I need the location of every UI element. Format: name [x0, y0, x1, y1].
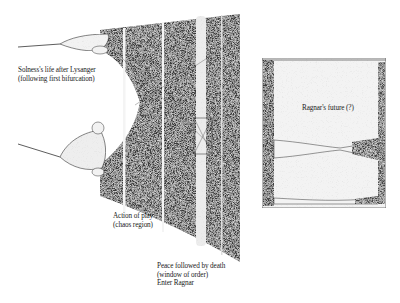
annotation-action: Action of play (chaos region): [113, 212, 153, 229]
annotation-action-line1: Action of play: [113, 212, 153, 221]
annotation-peace-line1: Peace followed by death: [157, 262, 225, 271]
inset-magnified-window: [262, 58, 386, 208]
annotation-ragnar-line1: Ragnar's future (?): [302, 104, 354, 113]
upper-stable-branch: [18, 44, 60, 47]
upper-small-lobe: [92, 46, 108, 54]
lower-stable-branch: [18, 144, 60, 157]
annotation-peace: Peace followed by death (window of order…: [157, 262, 225, 288]
lower-period-lobe: [60, 130, 106, 170]
inset-left-chaos-band: [263, 60, 274, 206]
annotation-action-line2: (chaos region): [113, 221, 153, 230]
annotation-solness-line1: Solness's life after Lysanger: [18, 66, 96, 75]
lower-small-lobe-top: [92, 122, 104, 134]
inset-right-chaos-band: [378, 62, 385, 204]
lower-small-lobe-bottom: [92, 168, 104, 176]
annotation-solness-line2: (following first bifurcation): [18, 75, 96, 84]
bifurcation-figure: [0, 0, 400, 303]
periodic-window-1: [123, 28, 126, 216]
annotation-peace-line3: Enter Ragnar: [157, 279, 225, 288]
periodic-window-4: [221, 15, 223, 255]
periodic-window-2: [162, 22, 164, 232]
inset-frame: [262, 58, 386, 208]
annotation-peace-line2: (window of order): [157, 271, 225, 280]
annotation-solness: Solness's life after Lysanger (following…: [18, 66, 96, 83]
periodic-window-3-period3: [196, 16, 206, 246]
annotation-ragnar: Ragnar's future (?): [302, 104, 354, 113]
